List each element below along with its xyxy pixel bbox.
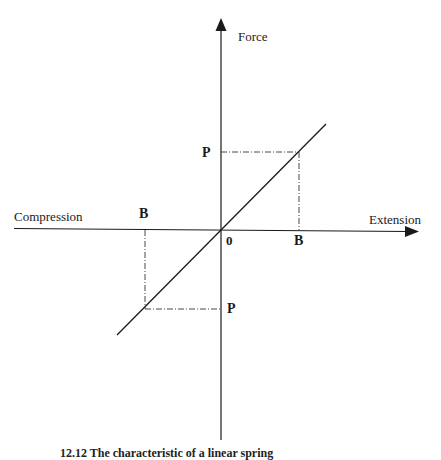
compression-b-label: B <box>139 207 148 221</box>
figure-caption: 12.12 The characteristic of a linear spr… <box>60 447 273 459</box>
origin-label: 0 <box>226 234 233 247</box>
force-axis-label: Force <box>238 30 268 43</box>
upper-force-p-label: P <box>202 146 211 160</box>
compression-axis-label: Compression <box>14 210 83 223</box>
horizontal-axis <box>14 229 408 232</box>
extension-arrowhead-icon <box>405 226 419 237</box>
extension-b-label: B <box>294 234 303 248</box>
force-arrowhead-icon <box>216 18 227 31</box>
lower-force-p-label: P <box>227 302 236 316</box>
extension-axis-label: Extension <box>369 213 421 226</box>
